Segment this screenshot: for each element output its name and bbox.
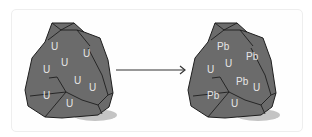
rock-after: Pb Pb U U Pb U Pb U — [188, 23, 280, 121]
lead-label: Pb — [236, 76, 249, 87]
uranium-label: U — [225, 58, 232, 69]
uranium-label: U — [253, 82, 260, 93]
arrow-right-icon — [116, 66, 185, 74]
uranium-label: U — [89, 82, 96, 93]
uranium-label: U — [66, 98, 73, 109]
lead-label: Pb — [246, 51, 259, 62]
uranium-label: U — [43, 64, 50, 75]
uranium-label: U — [74, 75, 81, 86]
uranium-label: U — [43, 90, 50, 101]
uranium-label: U — [231, 98, 238, 109]
uranium-label: U — [51, 41, 58, 52]
lead-label: Pb — [217, 41, 230, 52]
uranium-label: U — [207, 64, 214, 75]
uranium-label: U — [83, 48, 90, 59]
lead-label: Pb — [207, 90, 220, 101]
uranium-label: U — [61, 57, 68, 68]
rock-before: U U U U U U U U — [25, 23, 117, 121]
decay-diagram: U U U U U U U U Pb Pb U U Pb U Pb U — [0, 0, 312, 137]
